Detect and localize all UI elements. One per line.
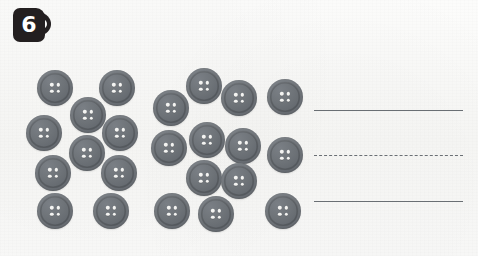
button-hole [206,88,210,92]
button-holes [278,206,288,216]
button-hole [199,81,203,85]
button-hole [238,141,242,145]
button-hole [57,206,61,210]
button-hole [238,148,242,152]
button-hole [119,83,123,87]
button-hole [202,142,206,146]
button-hole [113,206,117,210]
button-holes [211,209,221,219]
button-hole [241,100,245,104]
button-hole [50,90,54,94]
button-holes [48,168,58,178]
button-holes [50,83,60,93]
button-hole [241,176,245,180]
exercise-number-badge: 6 [13,8,45,42]
button-hole [173,110,177,114]
button-hole [206,180,210,184]
button-hole [166,103,170,107]
button-hole [82,148,86,152]
button-holes [112,83,122,93]
button-hole [50,83,54,87]
button-hole [83,110,87,114]
button-hole [211,216,215,220]
button-hole [121,175,125,179]
button-hole [234,100,238,104]
button-holes [50,206,60,216]
button-token [186,160,222,196]
button-token [99,70,135,106]
button-hole [90,117,94,121]
button-hole [164,150,168,154]
button-hole [287,99,291,103]
button-holes [83,110,93,120]
button-hole [122,135,126,139]
top-solid-line[interactable] [314,110,463,111]
button-token [267,79,303,115]
button-holes [238,141,248,151]
button-hole [209,142,213,146]
button-hole [39,128,43,132]
button-token [154,193,190,229]
button-hole [50,206,54,210]
button-hole [202,135,206,139]
button-hole [167,206,171,210]
button-hole [280,150,284,154]
button-hole [218,209,222,213]
button-hole [211,209,215,213]
button-token [69,135,105,171]
button-token [265,193,301,229]
button-token [151,130,187,166]
button-hole [218,216,222,220]
button-hole [39,135,43,139]
button-hole [90,110,94,114]
button-token [225,128,261,164]
button-hole [241,183,245,187]
button-hole [114,175,118,179]
button-holes [164,143,174,153]
button-hole [234,183,238,187]
button-token [37,193,73,229]
button-holes [114,168,124,178]
button-hole [287,92,291,96]
button-hole [241,93,245,97]
button-hole [245,148,249,152]
bottom-solid-line[interactable] [314,201,463,202]
button-hole [57,90,61,94]
button-hole [280,92,284,96]
button-holes [234,93,244,103]
button-hole [199,173,203,177]
button-hole [167,213,171,217]
button-hole [287,150,291,154]
button-hole [209,135,213,139]
button-holes [234,176,244,186]
button-holes [199,173,209,183]
button-hole [57,213,61,217]
worksheet-page: 6 [0,0,478,256]
button-hole [82,155,86,159]
button-hole [287,157,291,161]
button-hole [164,143,168,147]
button-hole [48,175,52,179]
button-hole [245,141,249,145]
button-hole [89,155,93,159]
button-hole [112,83,116,87]
button-holes [280,92,290,102]
button-hole [166,110,170,114]
button-hole [106,206,110,210]
button-holes [199,81,209,91]
button-hole [280,157,284,161]
button-hole [199,88,203,92]
button-hole [115,128,119,132]
button-token [153,90,189,126]
button-hole [48,168,52,172]
button-token [93,193,129,229]
button-hole [174,206,178,210]
middle-dashed-line[interactable] [314,155,463,156]
button-token [198,196,234,232]
button-hole [199,180,203,184]
button-hole [119,90,123,94]
button-hole [55,175,59,179]
button-hole [285,206,289,210]
button-token [37,70,73,106]
button-holes [82,148,92,158]
